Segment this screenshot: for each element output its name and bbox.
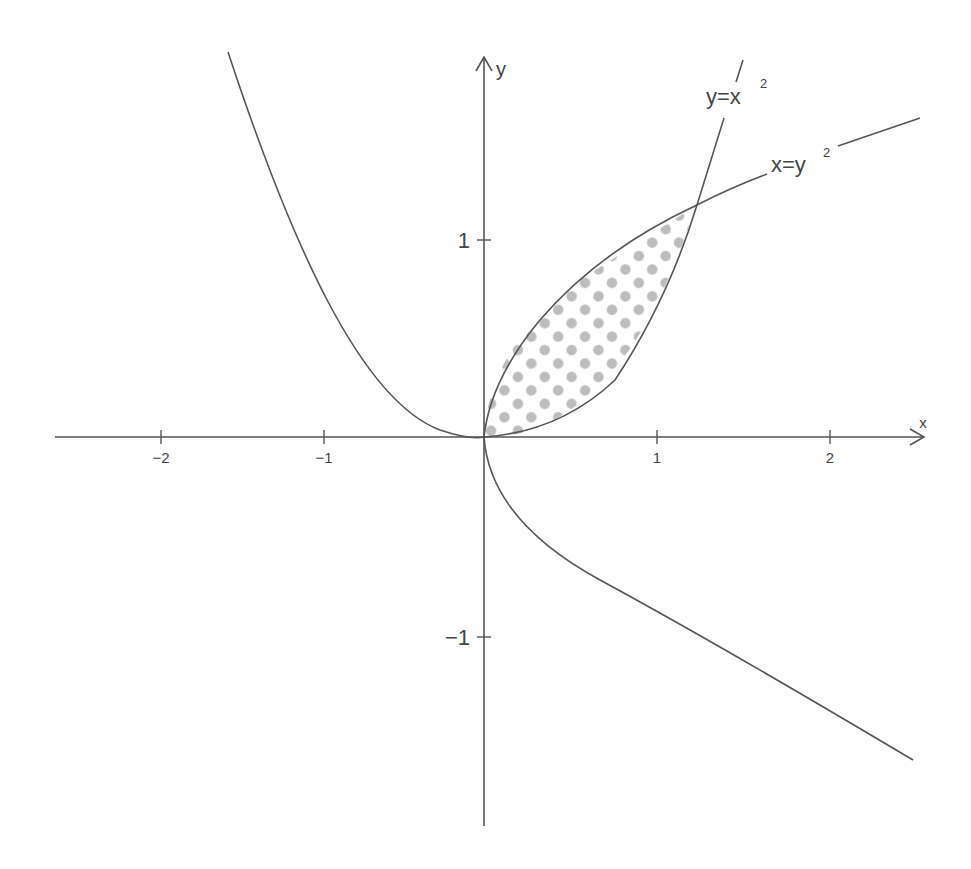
label-x-equals-y-exp: 2 xyxy=(823,145,830,160)
curve-y-equals-x-squared-top xyxy=(736,60,743,82)
label-x-equals-y-squared: x=y 2 xyxy=(771,145,830,177)
y-axis-label: y xyxy=(496,58,506,80)
x-tick-label: 1 xyxy=(653,449,661,466)
x-axis-label: x xyxy=(919,414,927,431)
label-x-equals-y-base: x=y xyxy=(771,152,806,177)
label-y-equals-x-base: y=x xyxy=(706,84,741,109)
math-figure: −2 −1 1 2 1 −1 x y y=x 2 x=y 2 xyxy=(0,0,971,869)
x-tick-label: 2 xyxy=(826,449,834,466)
label-y-equals-x-exp: 2 xyxy=(760,76,767,91)
curve-x-equals-y-squared xyxy=(484,174,913,760)
y-tick-label: −1 xyxy=(445,625,470,650)
x-tick-label: −1 xyxy=(315,449,332,466)
shaded-region xyxy=(484,205,697,437)
y-tick-label: 1 xyxy=(458,228,470,253)
x-tick-label: −2 xyxy=(152,449,169,466)
curve-x-equals-y-squared-top xyxy=(838,118,920,146)
